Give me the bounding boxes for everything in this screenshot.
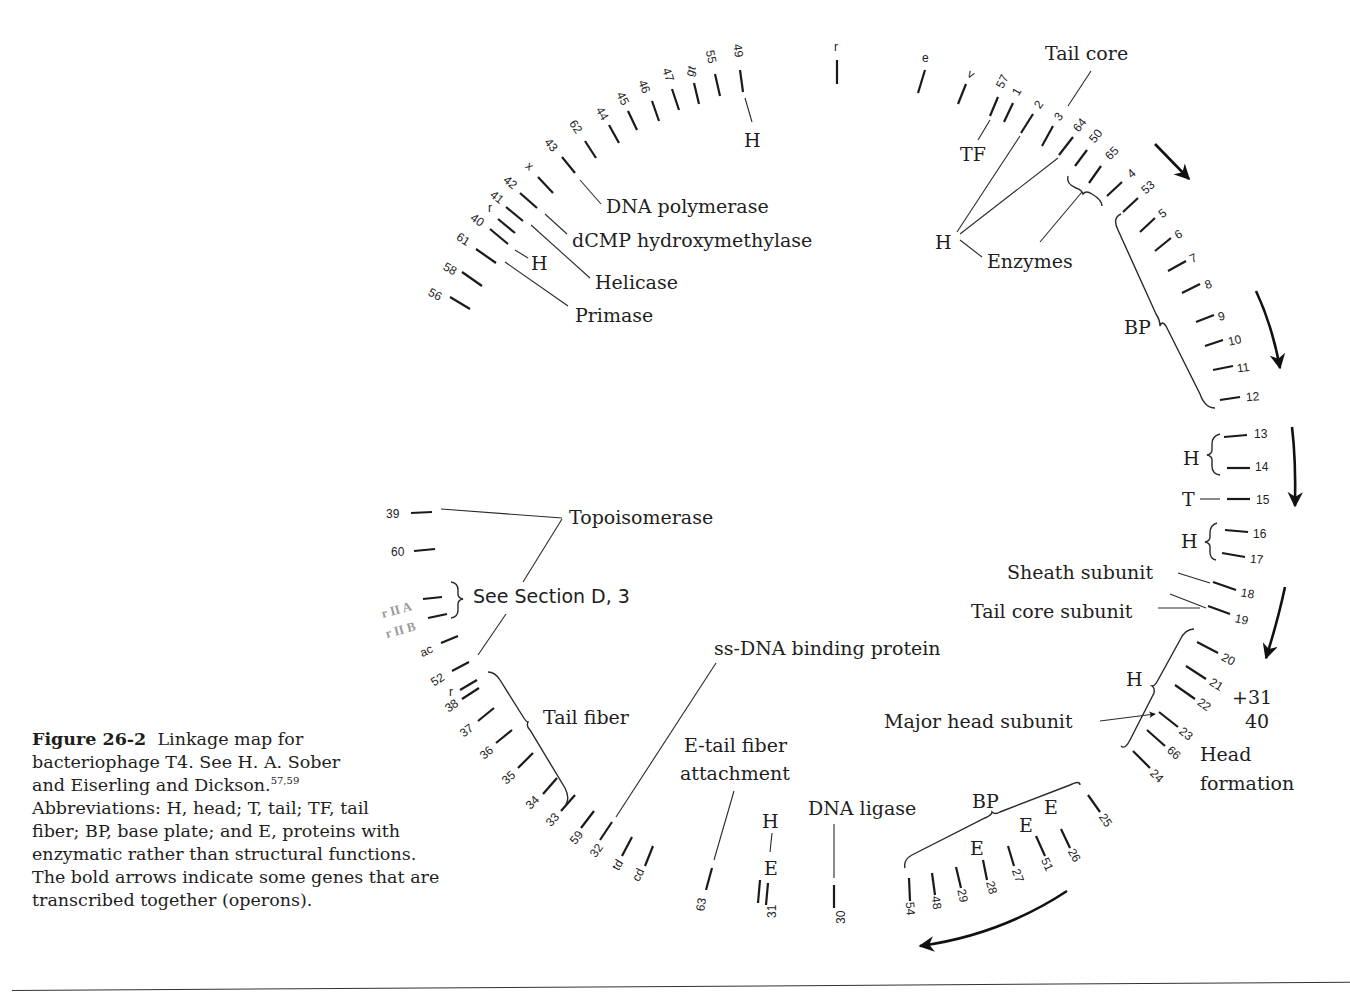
gene-label: 48	[929, 895, 945, 910]
gene-label: 9	[1216, 308, 1226, 323]
gene-label: 2	[1031, 98, 1046, 112]
label-e-31: E	[764, 857, 778, 879]
gene-label: 63	[693, 896, 709, 912]
gene-label: 49	[730, 43, 746, 58]
label-h-13-14: H	[1183, 447, 1200, 469]
gene-label: 12	[1245, 389, 1260, 404]
operon-arrow-icon	[1292, 427, 1295, 506]
gene-label: 53	[1138, 177, 1157, 197]
gene-label: v	[965, 66, 977, 81]
figure-number: Figure 26-2	[32, 729, 146, 749]
gene-label: 47	[659, 66, 677, 83]
gene-label: 66	[1164, 743, 1184, 763]
gene-label: gt	[682, 63, 699, 78]
gene-label: 16	[1253, 527, 1267, 541]
gene-label: e	[922, 51, 929, 65]
caption-line: fiber; BP, base plate; and E, proteins w…	[32, 821, 400, 841]
caption-line: Linkage map for	[157, 729, 303, 749]
gene-label: 20	[1219, 650, 1238, 669]
label-tail-core: Tail core	[1045, 42, 1128, 64]
gene-label: 62	[566, 117, 585, 136]
top-genes: r e v 57 1 2 3	[834, 40, 1066, 146]
caption-line: The bold arrows indicate some genes that…	[32, 867, 439, 887]
label-tf: TF	[960, 143, 986, 165]
gene-label: 45	[614, 89, 633, 107]
upper-right-genes: 64 50 65 4 53 5 6 7 8 9 10 11 12	[1059, 115, 1260, 404]
label-helicase: Helicase	[595, 271, 678, 293]
gene-label: 34	[523, 793, 543, 813]
label-e-26: E	[1044, 796, 1058, 818]
h-16-17-brace	[1205, 523, 1217, 560]
enzymes-brace	[1068, 176, 1102, 206]
label-h-49: H	[744, 129, 761, 151]
gene-label: 24	[1147, 766, 1167, 786]
label-head-formation-2: formation	[1200, 772, 1294, 794]
gene-label: 11	[1236, 360, 1251, 376]
gene-label: 17	[1249, 552, 1264, 567]
bottom-center: H E 31 E-tail fiber attachment 63 cd td …	[567, 637, 941, 918]
gene-label: 30	[834, 910, 848, 924]
gene-label: 52	[428, 670, 447, 689]
gene-label: 6	[1172, 226, 1185, 242]
label-tail-fiber: Tail fiber	[543, 706, 630, 728]
upper-left-genes: 56 58 61 40 r 41 42 x 43 62 44 45 46 47 …	[426, 43, 752, 309]
label-see-section: See Section D, 3	[473, 585, 630, 607]
label-sheath-subunit: Sheath subunit	[1007, 561, 1153, 583]
gene-label: 59	[567, 828, 587, 847]
gene-label: 5	[1156, 206, 1170, 221]
gene-label: 27	[1009, 867, 1027, 885]
gene-label: r	[834, 40, 838, 54]
gene-label: 56	[426, 285, 445, 304]
label-e-tail-fiber-1: E-tail fiber	[684, 734, 788, 756]
gene-label: 4	[1124, 166, 1138, 181]
gene-label: r	[488, 201, 492, 215]
label-tail-core-subunit: Tail core subunit	[971, 600, 1133, 622]
label-dna-polymerase: DNA polymerase	[606, 195, 769, 217]
caption-line: bacteriophage T4. See H. A. Sober	[32, 752, 340, 772]
gene-label: 46	[635, 78, 653, 96]
gene-label: 58	[441, 259, 460, 278]
gene-label: 19	[1234, 611, 1250, 628]
gene-label: 31	[765, 904, 779, 918]
gene-label: 7	[1187, 250, 1199, 266]
gene-label: 3	[1051, 109, 1066, 123]
gene-label: ac	[418, 642, 435, 660]
gene-label: 32	[587, 841, 606, 860]
gene-label: r	[449, 685, 453, 699]
gene-label: 15	[1256, 493, 1270, 507]
label-h-31: H	[762, 810, 779, 832]
label-e-28: E	[970, 837, 984, 859]
gene-label: 55	[703, 49, 720, 65]
h-13-14-brace	[1207, 434, 1220, 475]
gene-label: td	[609, 857, 626, 873]
gene-label: 51	[1038, 855, 1056, 873]
label-e-51: E	[1019, 814, 1033, 836]
gene-label: 64	[1070, 115, 1090, 134]
upper-left-annotations: H DNA polymerase dCMP hydroxymethylase H…	[505, 129, 812, 326]
label-h-head: H	[1126, 668, 1143, 690]
label-ss-dna: ss-DNA binding protein	[714, 637, 941, 659]
gene-label: 33	[543, 810, 563, 830]
label-h-40: H	[531, 252, 548, 274]
gene-label: 61	[454, 230, 473, 249]
gene-label: 25	[1096, 811, 1115, 830]
top-annotations: TF Tail core H Enzymes	[935, 42, 1128, 272]
gene-label: 26	[1065, 846, 1084, 865]
label-topoisomerase: Topoisomerase	[569, 506, 713, 528]
label-bp-bottom: BP	[972, 790, 999, 812]
gene-label: 13	[1254, 427, 1268, 441]
caption-line: and Eiserling and Dickson.	[32, 775, 271, 795]
gene-label: 43	[541, 135, 561, 154]
gene-label: 23	[1176, 724, 1195, 744]
gene-label: 29	[954, 888, 971, 904]
gene-label: 14	[1255, 460, 1269, 474]
gene-label: 40	[468, 211, 487, 230]
gene-label: 1	[1009, 85, 1025, 98]
citation-superscript: 57,59	[271, 775, 300, 786]
label-enzymes: Enzymes	[987, 250, 1073, 272]
caption-line: transcribed together (operons).	[32, 890, 312, 910]
operon-arrow-icon	[1266, 587, 1285, 658]
gene-label: 22	[1195, 695, 1214, 714]
gene-label: 28	[983, 879, 1000, 896]
bottom-genes: 25 26 51 27 28 29 48 54	[903, 795, 1116, 916]
